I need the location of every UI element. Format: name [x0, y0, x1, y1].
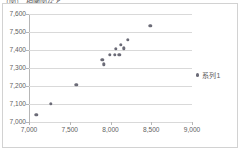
chart-container: （図） 相関図など 7,0007,1007,2007,3007,4007,500… — [0, 0, 241, 151]
x-axis-tick — [151, 122, 152, 125]
data-point[interactable] — [122, 46, 125, 49]
plot-area — [29, 14, 192, 122]
data-point[interactable] — [102, 63, 105, 66]
legend-marker-icon — [196, 73, 199, 76]
y-axis-label: 7,300 — [0, 64, 26, 71]
x-axis-tick — [192, 122, 193, 125]
y-axis-label: 7,400 — [0, 46, 26, 53]
x-axis-label: 7,500 — [61, 126, 78, 133]
data-point[interactable] — [75, 83, 78, 86]
data-point[interactable] — [108, 53, 111, 56]
chart-legend[interactable]: 系列1 — [196, 70, 220, 80]
data-point[interactable] — [114, 47, 117, 50]
legend-entry-label: 系列1 — [202, 70, 220, 80]
y-axis-label: 7,200 — [0, 82, 26, 89]
data-point[interactable] — [113, 53, 116, 56]
x-axis-tick — [70, 122, 71, 125]
data-point[interactable] — [35, 113, 38, 116]
data-point[interactable] — [149, 24, 152, 27]
data-point[interactable] — [101, 58, 104, 61]
y-axis-label: 7,500 — [0, 28, 26, 35]
y-axis-label: 7,600 — [0, 10, 26, 17]
y-axis-label: 7,100 — [0, 100, 26, 107]
x-axis-tick — [29, 122, 30, 125]
data-point[interactable] — [126, 38, 129, 41]
x-axis-label: 8,000 — [102, 126, 119, 133]
data-point[interactable] — [49, 102, 52, 105]
x-axis-label: 7,000 — [21, 126, 38, 133]
y-axis-label: 7,000 — [0, 118, 26, 125]
x-axis-label: 9,000 — [184, 126, 201, 133]
data-point[interactable] — [118, 53, 121, 56]
x-axis-label: 8,500 — [143, 126, 160, 133]
x-axis-tick — [111, 122, 112, 125]
